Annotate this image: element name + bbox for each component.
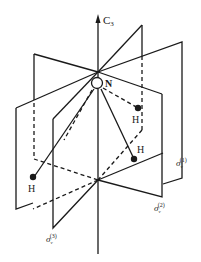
- bond-n-h2: [101, 89, 134, 159]
- plane-label-2: σv(2): [154, 202, 165, 214]
- bond-hidden: [64, 90, 92, 140]
- plane-sigma-v1: [16, 42, 182, 209]
- hydrogen-atom-1-icon: [135, 105, 141, 111]
- hydrogen-label-2: H: [137, 144, 144, 155]
- hydrogen-atom-2-icon: [131, 156, 137, 162]
- plane-label-3: σv(3): [46, 233, 57, 245]
- plane-label-1: σv(1): [176, 157, 187, 169]
- hydrogen-label-1: H: [132, 114, 139, 125]
- nitrogen-label: N: [105, 78, 113, 89]
- hydrogen-atom-3-icon: [30, 174, 36, 180]
- symmetry-diagram: C3 N H H H σv(1) σv(2) σv(3): [0, 0, 201, 262]
- axis-label: C3: [103, 14, 114, 28]
- axis-arrow-icon: [96, 14, 101, 23]
- hydrogen-label-3: H: [28, 183, 35, 194]
- nitrogen-atom-icon: [92, 78, 103, 89]
